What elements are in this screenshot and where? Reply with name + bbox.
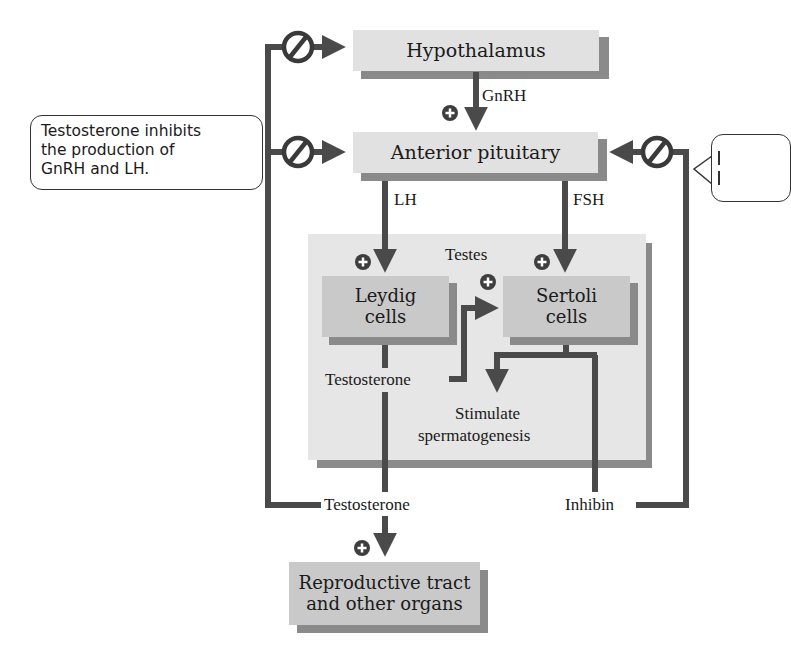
left-callout: Testosterone inhibits the production of …: [30, 115, 263, 190]
right-callout-glyph-1: [718, 151, 720, 165]
stimulate-arrow: [497, 355, 597, 382]
plus-icon-gnrh: [442, 105, 458, 121]
plus-icon-sertoli-fsh: [534, 254, 550, 270]
left-callout-line-2: the production of: [41, 141, 252, 160]
plus-icon-organs: [354, 540, 370, 556]
right-callout-tail: [694, 156, 712, 184]
lh-label: LH: [394, 190, 417, 210]
inhibin-label: Inhibin: [563, 495, 616, 515]
gnrh-label: GnRH: [482, 86, 526, 106]
stimulate-label-2: spermatogenesis: [418, 426, 530, 446]
plus-icon-sertoli-testosterone: [480, 274, 496, 290]
inhibit-icon-pituitary-left: [284, 138, 312, 166]
right-callout-glyph-2: [718, 171, 720, 185]
inhibin-feedback-loop: [636, 152, 686, 505]
fsh-label: FSH: [573, 190, 604, 210]
testosterone-outer-label: Testosterone: [323, 495, 411, 515]
inhibit-icon-pituitary-right: [643, 138, 671, 166]
stimulate-label-1: Stimulate: [455, 404, 520, 424]
right-callout: [711, 134, 791, 202]
testes-label: Testes: [445, 245, 487, 265]
testosterone-inner-label: Testosterone: [324, 370, 412, 390]
left-callout-line-1: Testosterone inhibits: [41, 122, 252, 141]
testosterone-to-sertoli-arrow: [449, 308, 488, 379]
inhibit-icon-hypothalamus: [284, 33, 312, 61]
plus-icon-leydig: [355, 254, 371, 270]
left-callout-line-3: GnRH and LH.: [41, 160, 252, 179]
testosterone-feedback-loop: [268, 47, 321, 505]
